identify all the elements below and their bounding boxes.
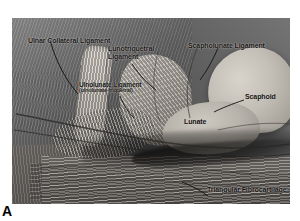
label-lunotriquetral-line2: Ligament <box>108 53 138 60</box>
label-scapholunate-ligament: Scapholunate Ligament <box>188 42 265 50</box>
label-triangular-fibrocartilage: Triangular Fibrocartilage <box>207 186 287 194</box>
label-lunotriquetral-ligament: Lunotriquetral Ligament <box>108 45 154 60</box>
label-lunotriquetral-line1: Lunotriquetral <box>108 45 154 52</box>
panel-letter: A <box>2 203 12 219</box>
wrist-anatomy-photograph: Ulnar Collateral Ligament Lunotriquetral… <box>12 18 290 204</box>
label-lunate: Lunate <box>184 118 206 126</box>
anatomy-figure: Ulnar Collateral Ligament Lunotriquetral… <box>0 0 300 221</box>
label-scaphoid: Scaphoid <box>245 93 276 101</box>
label-ulnolunate-ligament-subtitle: (ulnolunate-triquetral) <box>79 88 133 94</box>
label-ulnar-collateral-ligament: Ulnar Collateral Ligament <box>28 37 110 45</box>
